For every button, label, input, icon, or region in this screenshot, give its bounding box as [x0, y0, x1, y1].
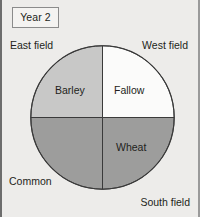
pie-slice-label-barley: Barley [55, 85, 85, 96]
annotation-east-field: East field [10, 40, 53, 51]
pie-slice-label-wheat: Wheat [116, 142, 146, 153]
annotation-south-field: South field [140, 197, 190, 208]
pie-slice-label-fallow: Fallow [114, 85, 144, 96]
pie-slice-fallow[interactable] [103, 46, 175, 118]
annotation-common: Common [9, 176, 52, 187]
annotation-west-field: West field [142, 40, 188, 51]
pie-chart [30, 45, 175, 190]
pie-slice-wheat[interactable] [103, 118, 175, 190]
pie-chart-svg [30, 45, 175, 190]
chart-title-text: Year 2 [20, 12, 51, 23]
pie-slice-barley[interactable] [31, 46, 103, 118]
chart-title-box: Year 2 [12, 7, 59, 28]
year-2-field-rotation-diagram: Year 2 Barley Fallow Wheat East field We… [0, 0, 200, 217]
